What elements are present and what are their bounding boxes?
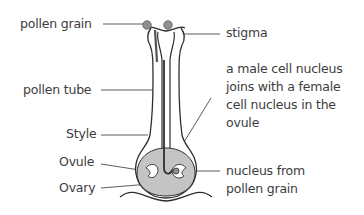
label-line: pollen grain [226, 180, 305, 198]
label-style: Style [66, 125, 96, 143]
label-line: nucleus from [226, 162, 305, 180]
label-nucleus-from-pollen: nucleus from pollen grain [226, 162, 305, 198]
carpel-diagram: pollen grain pollen tube Style Ovule Ova… [0, 0, 364, 215]
label-line: cell nucleus in the [226, 96, 343, 114]
label-pollen-tube: pollen tube [23, 81, 91, 99]
label-stigma: stigma [226, 24, 267, 42]
pollen-grain-right [164, 21, 173, 30]
label-line: ovule [226, 114, 343, 132]
label-line: joins with a female [226, 78, 343, 96]
label-line: a male cell nucleus [226, 60, 343, 78]
label-pollen-grain: pollen grain [20, 15, 92, 33]
label-ovule: Ovule [59, 153, 94, 171]
pollen-grain-left [143, 21, 152, 30]
label-ovary: Ovary [59, 179, 95, 197]
pollen-nucleus [173, 168, 179, 174]
label-male-nucleus-joins: a male cell nucleus joins with a female … [226, 60, 343, 132]
